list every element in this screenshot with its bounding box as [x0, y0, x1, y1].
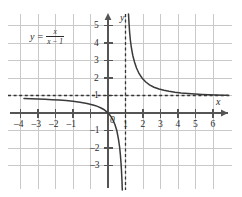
- y-axis-arrow: [105, 13, 112, 20]
- x-tick-label-5: 5: [193, 120, 198, 130]
- fraction-denominator: x − 1: [47, 37, 63, 45]
- equation-fraction: x x − 1: [46, 28, 64, 45]
- y-tick-label-2: 2: [94, 74, 99, 84]
- y-tick-label-neg2: –2: [90, 144, 100, 154]
- equation-label: y = x x − 1: [30, 28, 64, 45]
- y-tick-label-neg3: –3: [90, 161, 100, 171]
- equation-lhs: y: [30, 31, 34, 42]
- equation-equals-sign: =: [37, 31, 43, 42]
- x-tick-label-neg1: –1: [67, 120, 77, 130]
- x-tick-label-1: 1: [123, 120, 128, 130]
- x-axis-arrow: [221, 110, 228, 117]
- x-axis-label: x: [216, 97, 220, 107]
- x-tick-label-2: 2: [141, 120, 146, 130]
- x-tick-label-6: 6: [211, 120, 216, 130]
- x-tick-label-neg3: –3: [32, 120, 42, 130]
- fraction-numerator: x: [53, 28, 56, 36]
- x-tick-label-4: 4: [176, 120, 181, 130]
- x-tick-label-3: 3: [158, 120, 163, 130]
- y-tick-label-3: 3: [94, 56, 99, 66]
- x-tick-label-neg4: –4: [14, 120, 24, 130]
- y-axis-label: y: [120, 13, 124, 23]
- x-tick-label-neg2: –2: [49, 120, 59, 130]
- origin-label: 0: [110, 116, 115, 126]
- y-tick-label-5: 5: [94, 21, 99, 31]
- y-tick-label-1: 1: [94, 91, 99, 101]
- y-tick-label-4: 4: [94, 39, 99, 49]
- y-tick-label-neg1: –1: [90, 126, 100, 136]
- function-graph-figure: y = x x − 1 y x 0 5 4 3 2 1 –1 –2 –3 –4 …: [0, 0, 242, 197]
